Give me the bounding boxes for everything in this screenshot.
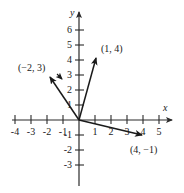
x-tick-label--3: -3 bbox=[27, 127, 35, 137]
vector-arrow-neg2-3 bbox=[50, 77, 79, 120]
x-tick-label-5: 5 bbox=[157, 127, 162, 137]
vector-arrow-1-4 bbox=[79, 58, 96, 120]
y-tick-label-3: 3 bbox=[59, 70, 72, 80]
y-tick-label-1: 1 bbox=[59, 100, 72, 110]
y-tick-label-2: 2 bbox=[59, 85, 72, 95]
x-axis-label: x bbox=[163, 103, 167, 113]
y-tick-label--2: -2 bbox=[54, 145, 72, 155]
x-tick-label-1: 1 bbox=[93, 127, 98, 137]
x-tick-label-2: 2 bbox=[109, 127, 114, 137]
point-label-neg2-3: (−2, 3) bbox=[18, 63, 45, 73]
y-tick-label-4: 4 bbox=[59, 55, 72, 65]
y-tick-label--3: -3 bbox=[54, 160, 72, 170]
x-tick-label--2: -2 bbox=[43, 127, 51, 137]
coordinate-plane-figure: -4 -3 -2 -1 1 2 3 4 5 6 5 4 3 2 1 -1 -2 … bbox=[0, 0, 184, 193]
point-label-1-4: (1, 4) bbox=[101, 44, 123, 54]
point-label-4-neg1: (4, −1) bbox=[130, 145, 157, 155]
plot-canvas bbox=[0, 0, 184, 193]
y-tick-label-6: 6 bbox=[59, 25, 72, 35]
y-axis-label: y bbox=[70, 8, 74, 18]
x-tick-label-3: 3 bbox=[125, 127, 130, 137]
x-tick-label--4: -4 bbox=[11, 127, 19, 137]
x-tick-label-4: 4 bbox=[141, 127, 146, 137]
y-tick-label--1: -1 bbox=[54, 130, 72, 140]
y-tick-label-5: 5 bbox=[59, 40, 72, 50]
